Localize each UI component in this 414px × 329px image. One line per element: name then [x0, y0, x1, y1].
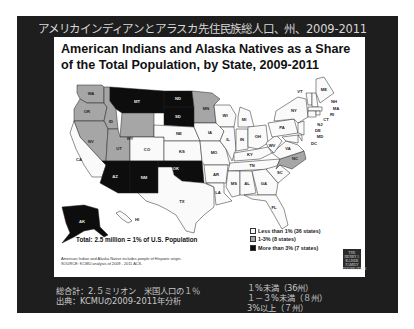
- svg-text:AK: AK: [79, 219, 85, 224]
- svg-text:GA: GA: [261, 181, 267, 186]
- svg-text:PA: PA: [279, 125, 285, 130]
- svg-text:KS: KS: [179, 149, 185, 154]
- svg-text:MS: MS: [231, 181, 237, 186]
- svg-text:MN: MN: [203, 106, 210, 111]
- svg-text:SC: SC: [277, 170, 283, 175]
- svg-text:ME: ME: [321, 87, 327, 92]
- svg-text:VA: VA: [285, 146, 291, 151]
- source-note: American Indian and Alaska Native includ…: [61, 256, 181, 266]
- svg-text:CA: CA: [76, 157, 82, 162]
- svg-text:OK: OK: [173, 166, 179, 171]
- svg-text:CO: CO: [144, 147, 151, 152]
- state-RI: [316, 111, 320, 115]
- legend-item-less-than-1: Less than 1% (36 states): [250, 227, 321, 235]
- svg-text:MO: MO: [211, 150, 218, 155]
- svg-text:HI: HI: [135, 217, 139, 222]
- svg-text:NE: NE: [176, 131, 182, 136]
- state-VT: [306, 93, 312, 105]
- state-MA: [308, 107, 322, 111]
- svg-text:OR: OR: [84, 109, 90, 114]
- japanese-legend: １%未満（36州） １－３%未満（８州） 3%以上（７州）: [247, 283, 327, 313]
- svg-text:NY: NY: [291, 108, 297, 113]
- state-MD: [282, 135, 298, 143]
- svg-text:NM: NM: [141, 175, 148, 180]
- svg-text:AL: AL: [244, 181, 250, 186]
- svg-text:FL: FL: [271, 205, 277, 210]
- state-CT: [308, 111, 316, 117]
- jp-legend-more-than-3: 3%以上（７州）: [247, 303, 327, 313]
- legend-swatch-black: [250, 245, 256, 251]
- svg-text:NH: NH: [331, 99, 337, 104]
- map-legend: Less than 1% (36 states) 1-3% (8 states)…: [250, 227, 321, 252]
- svg-text:CT: CT: [323, 117, 329, 122]
- svg-text:ND: ND: [175, 96, 181, 101]
- kaiser-family-foundation-logo: THE HENRY J. KAISER FAMILY FOUNDATION: [343, 249, 361, 269]
- svg-text:IA: IA: [208, 130, 212, 135]
- svg-text:NV: NV: [88, 139, 94, 144]
- svg-text:MA: MA: [333, 106, 340, 111]
- state-HI: [116, 211, 132, 223]
- svg-text:DC: DC: [311, 141, 317, 146]
- svg-text:MT: MT: [134, 99, 140, 104]
- svg-text:LA: LA: [215, 190, 221, 195]
- total-population-caption: Total: 2.5 million = 1% of U.S. Populati…: [76, 236, 197, 243]
- svg-text:WA: WA: [88, 91, 95, 96]
- svg-text:DE: DE: [315, 128, 321, 133]
- jp-summary-source: 出典：KCMUの2009-2011年分析: [56, 296, 200, 306]
- svg-text:VT: VT: [297, 89, 303, 94]
- svg-text:KY: KY: [247, 152, 253, 157]
- jp-legend-1-to-3: １－３%未満（８州）: [247, 293, 327, 303]
- legend-item-1-to-3: 1-3% (8 states): [250, 235, 321, 243]
- japanese-title: アメリカインディアンとアラスカ先住民族総人口、州、2009-2011: [38, 20, 367, 36]
- note-line-2: SOURCE: KCMU analysis of 2009 - 2011 ACS…: [61, 261, 181, 266]
- svg-text:NJ: NJ: [317, 122, 323, 127]
- svg-text:TX: TX: [179, 199, 185, 204]
- svg-text:OH: OH: [255, 134, 261, 139]
- svg-text:WY: WY: [127, 136, 134, 141]
- svg-text:MD: MD: [317, 134, 324, 139]
- chart-card: American Indians and Alaska Natives as a…: [54, 37, 365, 277]
- state-DE: [298, 135, 302, 141]
- svg-text:RI: RI: [330, 112, 334, 117]
- svg-text:SD: SD: [175, 114, 181, 119]
- state-WY: [120, 113, 154, 137]
- japanese-summary: 総合計：2.５ミリオン 米国人口の１％ 出典：KCMUの2009-2011年分析: [56, 286, 200, 306]
- state-NJ: [298, 121, 304, 135]
- svg-text:TN: TN: [249, 163, 255, 168]
- svg-text:ID: ID: [109, 119, 113, 124]
- state-FL: [244, 195, 288, 229]
- legend-item-more-than-3: More than 3% (7 states): [250, 244, 321, 252]
- legend-swatch-white: [250, 228, 256, 234]
- svg-text:AR: AR: [213, 172, 219, 177]
- svg-text:WI: WI: [222, 113, 227, 118]
- svg-text:IL: IL: [226, 137, 230, 142]
- svg-text:WV: WV: [269, 143, 276, 148]
- legend-swatch-gray: [250, 236, 256, 242]
- jp-legend-less-than-1: １%未満（36州）: [247, 283, 327, 293]
- svg-text:MI: MI: [242, 117, 247, 122]
- svg-text:NC: NC: [292, 156, 298, 161]
- svg-text:IN: IN: [240, 137, 244, 142]
- svg-text:UT: UT: [116, 146, 122, 151]
- svg-text:AZ: AZ: [112, 174, 118, 179]
- jp-summary-total: 総合計：2.５ミリオン 米国人口の１％: [56, 286, 200, 296]
